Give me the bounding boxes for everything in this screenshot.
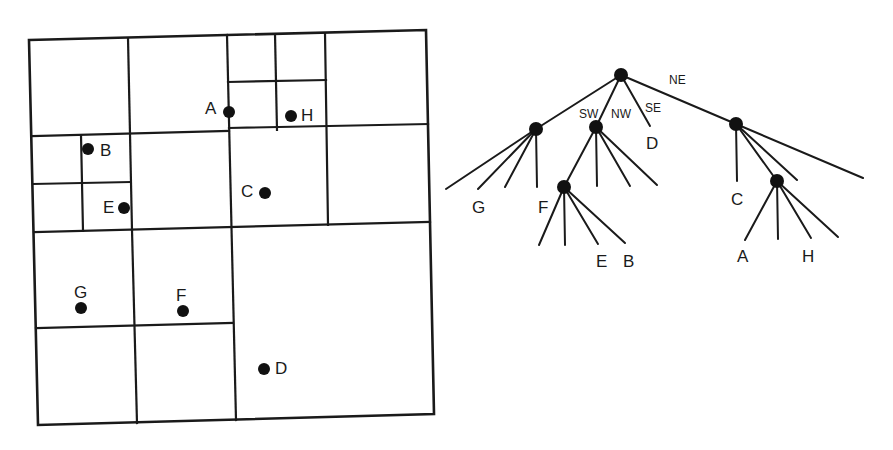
ne-split-vertical [325,33,328,225]
ne-split-horizontal [229,124,428,128]
region-map: A H B E C G F D [29,30,434,425]
point-F: F [176,286,189,317]
edge-nenw-3 [777,181,838,237]
point-E: E [103,198,130,217]
edge-nwsw-2 [564,187,598,244]
nw-sw-split-horizontal [33,182,130,184]
edge-label-nw: NW [611,107,632,121]
node-nw [589,120,603,134]
edge-nenw-0 [745,181,777,240]
edge-sw-0 [446,129,536,189]
edge-ne-2 [736,124,797,180]
point-marker [285,110,297,122]
ne-nw-split-horizontal [228,80,326,82]
leaf-label-E: E [596,252,607,271]
leaf-label-F: F [538,198,548,217]
point-marker [82,143,94,155]
point-marker [259,187,271,199]
point-marker [177,305,189,317]
point-marker [223,106,235,118]
point-label: C [241,182,253,201]
point-C: C [241,182,271,201]
point-B: B [82,141,111,160]
point-label: A [205,99,217,118]
point-label: F [176,286,186,305]
edge-sw-2 [505,129,536,187]
edge-ne-0 [736,124,737,181]
leaf-label-B: B [623,252,634,271]
leaf-label-A: A [737,247,749,266]
leaf-label-H: H [802,247,814,266]
point-H: H [285,106,313,125]
quadtree: SW NW SE NE G F D E B C A H [446,68,863,271]
edge-nwsw-1 [564,187,565,245]
edge-nw-2 [596,127,630,186]
edge-label-ne: NE [669,73,686,87]
point-marker [75,302,87,314]
edge-label-sw: SW [579,107,599,121]
point-D: D [258,359,287,378]
node-ne-nw [770,174,784,188]
edge-nenw-1 [777,181,778,239]
leaf-label-D: D [646,134,658,153]
edge-nw-1 [596,127,597,186]
point-label: E [103,198,114,217]
point-label: B [100,141,111,160]
edge-nenw-2 [777,181,811,238]
edge-nwsw-3 [564,187,625,243]
edge-sw-1 [478,129,536,189]
node-root [614,68,628,82]
edge-label-se: SE [645,101,661,115]
point-label: D [275,359,287,378]
point-label: H [301,106,313,125]
node-nw-sw [557,180,571,194]
point-marker [258,363,270,375]
leaf-label-C: C [731,190,743,209]
point-G: G [74,283,87,314]
node-sw [529,122,543,136]
point-A: A [205,99,235,118]
edge-sw-3 [536,129,537,187]
edge-nw-0 [564,127,596,187]
quadtree-figure: A H B E C G F D [0,0,893,450]
node-ne [729,117,743,131]
point-label: G [74,283,87,302]
point-marker [118,202,130,214]
leaf-label-G: G [472,198,485,217]
